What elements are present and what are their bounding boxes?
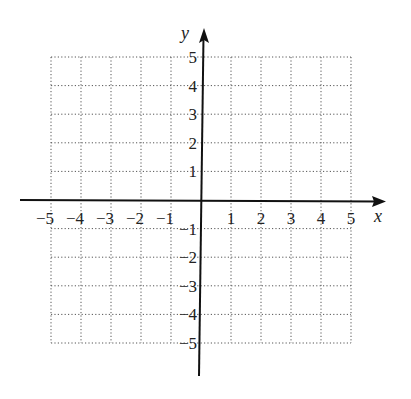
y-tick-label: −1 [179,220,197,239]
x-tick-label: 5 [347,209,356,228]
x-tick-label: 1 [227,209,236,228]
y-tick-label: 1 [189,162,198,181]
x-axis-label: x [373,206,382,226]
y-tick-label: 2 [189,134,198,153]
x-tick-label: 2 [257,209,266,228]
y-tick-label: −4 [179,305,198,324]
x-tick-label: 3 [287,209,296,228]
y-tick-label: 3 [189,105,198,124]
x-tick-label: −1 [156,209,174,228]
y-tick-label: 4 [189,77,198,96]
y-tick-label: −5 [179,334,197,353]
y-axis [199,36,204,376]
y-axis-label: y [179,23,189,43]
x-axis [20,200,378,202]
x-tick-label: −2 [126,209,144,228]
coordinate-plane: −5−4−3−2−112345 54321−1−2−3−4−5 x y [0,0,411,399]
x-tick-label: 4 [317,209,326,228]
y-tick-label: −3 [179,277,197,296]
x-tick-label: −3 [96,209,114,228]
x-tick-label: −4 [66,209,85,228]
y-tick-label: 5 [189,48,198,67]
axes [20,28,386,376]
x-tick-label: −5 [36,209,54,228]
y-tick-label: −2 [179,248,197,267]
